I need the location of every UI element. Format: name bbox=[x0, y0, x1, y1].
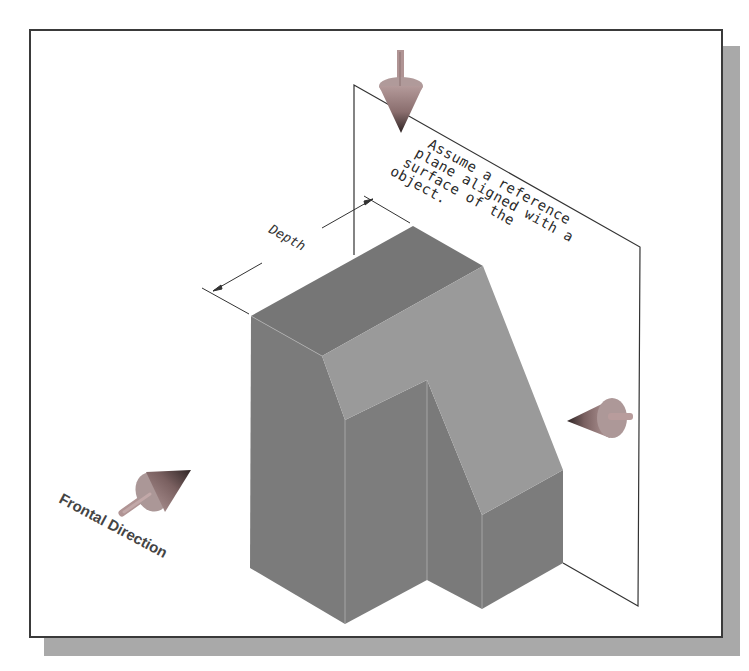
block-front-face bbox=[345, 380, 427, 624]
side-view-arrow-icon bbox=[567, 398, 633, 438]
frontal-view-arrow-icon bbox=[122, 468, 191, 517]
isometric-figure: Assume a reference plane aligned with a … bbox=[0, 0, 749, 671]
l-shaped-block bbox=[250, 226, 563, 624]
depth-label: Depth bbox=[266, 221, 308, 254]
